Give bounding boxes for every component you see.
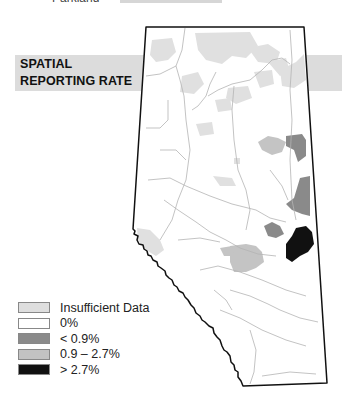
legend-swatch (18, 302, 50, 313)
legend-item-insufficient: Insufficient Data (18, 300, 149, 316)
legend-item-high: > 2.7% (18, 362, 149, 378)
legend-label: Insufficient Data (60, 301, 149, 315)
legend-swatch (18, 318, 50, 329)
map-title: SPATIAL REPORTING RATE (20, 56, 132, 90)
legend-swatch (18, 349, 50, 360)
legend: Insufficient Data 0% < 0.9% 0.9 – 2.7% >… (18, 300, 149, 378)
legend-label: 0.9 – 2.7% (60, 347, 120, 361)
legend-swatch (18, 333, 50, 344)
legend-item-mid: 0.9 – 2.7% (18, 347, 149, 363)
title-line-2: REPORTING RATE (20, 73, 132, 90)
legend-label: > 2.7% (60, 363, 99, 377)
legend-label: 0% (60, 316, 78, 330)
legend-item-zero: 0% (18, 316, 149, 332)
legend-item-low: < 0.9% (18, 331, 149, 347)
legend-swatch (18, 364, 50, 375)
legend-label: < 0.9% (60, 332, 99, 346)
title-line-1: SPATIAL (20, 56, 132, 73)
